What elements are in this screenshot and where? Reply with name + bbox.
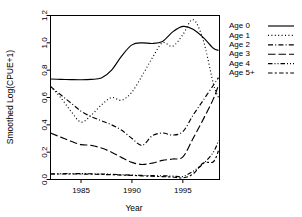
x-tick-label: 1985 bbox=[72, 186, 90, 195]
y-tick-label: 1.0 bbox=[40, 37, 49, 49]
legend-label-age-0: Age 0 bbox=[229, 21, 250, 30]
y-tick-label: 0.0 bbox=[40, 173, 49, 185]
y-tick-label: 0.8 bbox=[40, 64, 49, 76]
x-axis-title: Year bbox=[125, 203, 142, 213]
x-tick-label: 1990 bbox=[123, 186, 141, 195]
y-tick-label: 0.4 bbox=[40, 119, 49, 131]
legend-label-age-2: Age 2 bbox=[229, 40, 250, 49]
x-tick-label: 1995 bbox=[174, 186, 192, 195]
y-tick-label: 0.2 bbox=[40, 146, 49, 158]
y-tick-label: 0.6 bbox=[40, 91, 49, 103]
legend-label-age-3: Age 3 bbox=[229, 49, 250, 58]
legend-label-age-1: Age 1 bbox=[229, 31, 250, 40]
y-axis-title: Smoothed Log(CPUE+1) bbox=[5, 50, 15, 144]
chart-container: 0.00.20.40.60.81.01.2 198519901995 Year … bbox=[0, 0, 302, 217]
line-chart: 0.00.20.40.60.81.01.2 198519901995 Year … bbox=[0, 0, 302, 217]
y-tick-label: 1.2 bbox=[40, 9, 49, 21]
legend-label-age-4: Age 4 bbox=[229, 59, 250, 68]
legend-label-age-5: Age 5+ bbox=[229, 68, 255, 77]
